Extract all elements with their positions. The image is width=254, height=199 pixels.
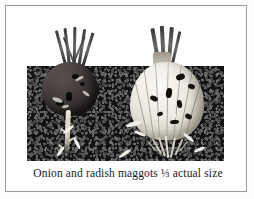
maggot-damage-hole (157, 111, 164, 117)
onion-skin-line (166, 62, 169, 140)
maggot-damage-hole (165, 88, 172, 99)
maggot-damage-hole (175, 73, 186, 82)
onion-bulb (130, 62, 204, 140)
figure-caption: Onion and radish maggots ⅓ actual size (22, 166, 234, 180)
onion-plant (122, 26, 217, 164)
figure-illustration (22, 26, 234, 164)
maggot-damage-hole (66, 92, 72, 101)
figure-frame-border: Onion and radish maggots ⅓ actual size (5, 5, 247, 192)
radish-taproot (64, 110, 71, 158)
maggot-tunnel-scar (82, 90, 90, 97)
onion-roots (148, 136, 188, 162)
maggot-tunnel-scar (62, 104, 69, 108)
maggot-damage-hole (170, 120, 179, 125)
maggot-damage-hole (80, 82, 85, 86)
onion-skin-line (130, 62, 150, 140)
radish-bulb (42, 62, 98, 116)
maggot-damage-hole (176, 100, 182, 109)
figure-page: Onion and radish maggots ⅓ actual size (0, 0, 254, 199)
onion-rootlet (165, 136, 169, 158)
